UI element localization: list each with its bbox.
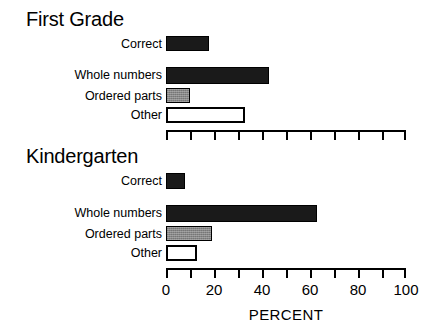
axis-tick-label: 20 (194, 281, 234, 298)
axis-tick-label: 0 (146, 281, 186, 298)
category-label-first-other: Other (40, 108, 162, 122)
panel-title-first-grade: First Grade (26, 8, 124, 31)
axis-tick (262, 268, 264, 278)
category-label-kinder-ordered-parts: Ordered parts (40, 227, 162, 241)
axis-tick-label: 60 (290, 281, 330, 298)
x-axis-caption: PERCENT (240, 306, 332, 323)
axis-tick (310, 268, 312, 278)
bar-kindergarten-other (166, 245, 197, 261)
bar-first-grade-correct (166, 36, 209, 51)
category-label-first-ordered-parts: Ordered parts (40, 89, 162, 103)
axis-tick (166, 268, 168, 278)
axis-tick (214, 268, 216, 278)
category-label-first-whole-numbers: Whole numbers (40, 68, 162, 82)
axis-tick-label: 40 (242, 281, 282, 298)
axis-tick (310, 130, 312, 140)
axis-tick (382, 130, 384, 140)
axis-tick (404, 130, 406, 140)
axis-tick (214, 130, 216, 140)
axis-tick (358, 130, 360, 140)
axis-tick (404, 268, 406, 278)
category-label-first-correct: Correct (40, 37, 162, 51)
bar-kindergarten-ordered-parts (166, 226, 212, 241)
category-label-kinder-other: Other (40, 246, 162, 260)
axis-tick (286, 268, 288, 278)
axis-tick (262, 130, 264, 140)
bar-kindergarten-correct (166, 173, 185, 189)
panel-title-kindergarten: Kindergarten (26, 145, 138, 168)
axis-tick (286, 130, 288, 140)
axis-tick (334, 130, 336, 140)
axis-tick (382, 268, 384, 278)
axis-tick (238, 268, 240, 278)
bar-first-grade-other (166, 107, 245, 123)
axis-tick (166, 130, 168, 140)
axis-tick (358, 268, 360, 278)
axis-tick-label: 100 (386, 281, 426, 298)
axis-tick (190, 130, 192, 140)
category-label-kinder-correct: Correct (40, 174, 162, 188)
bar-chart-figure: First Grade Correct Whole numbers Ordere… (0, 0, 428, 332)
axis-tick (334, 268, 336, 278)
bar-kindergarten-whole-numbers (166, 205, 317, 222)
axis-tick-label: 80 (338, 281, 378, 298)
category-label-kinder-whole-numbers: Whole numbers (40, 206, 162, 220)
bar-first-grade-ordered-parts (166, 88, 190, 103)
axis-tick (238, 130, 240, 140)
axis-tick (190, 268, 192, 278)
bar-first-grade-whole-numbers (166, 67, 269, 84)
